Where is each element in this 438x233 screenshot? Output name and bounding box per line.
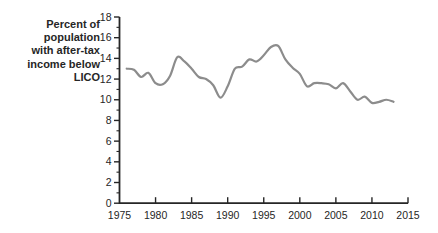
x-tick-label: 1980 (144, 209, 168, 221)
x-tick-label: 1995 (252, 209, 276, 221)
y-tick-label: 0 (106, 197, 112, 209)
lico-line-chart-figure: Percent of population with after-tax inc… (0, 0, 438, 233)
chart-canvas: 0246810121416181975198019851990199520002… (0, 0, 438, 233)
y-tick-label: 10 (100, 93, 112, 105)
x-tick-label: 2000 (288, 209, 312, 221)
y-tick-label: 4 (106, 155, 112, 167)
y-tick-label: 14 (100, 52, 112, 64)
y-tick-label: 16 (100, 31, 112, 43)
y-tick-label: 18 (100, 11, 112, 23)
y-tick-label: 2 (106, 176, 112, 188)
y-tick-label: 12 (100, 73, 112, 85)
y-tick-label: 8 (106, 114, 112, 126)
x-tick-label: 1985 (180, 209, 204, 221)
x-tick-label: 1990 (216, 209, 240, 221)
y-tick-label: 6 (106, 135, 112, 147)
x-tick-label: 2005 (324, 209, 348, 221)
x-tick-label: 2015 (396, 209, 420, 221)
x-tick-label: 1975 (108, 209, 132, 221)
lico-rate-line (127, 45, 394, 103)
x-tick-label: 2010 (360, 209, 384, 221)
axes (120, 17, 409, 203)
